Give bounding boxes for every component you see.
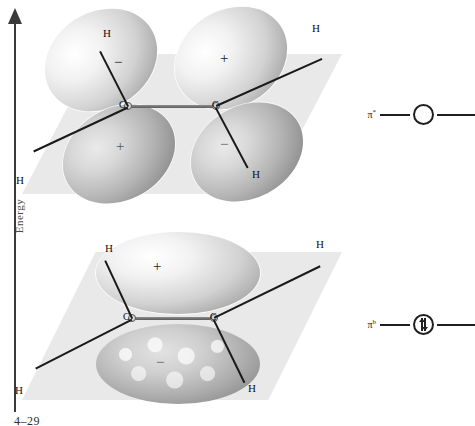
hydrogen-label-bottom-left: H [15,384,23,396]
carbon-carbon-bond [128,105,216,108]
level-line-right [437,324,475,326]
hydrogen-label-bottom-left: H [16,174,24,186]
hydrogen-label-top-right: H [316,238,324,250]
energy-level-antibonding: π* [356,104,475,125]
carbon-label-left: C [123,311,130,322]
energy-level-bonding: πb [356,314,475,335]
figure-number: 4–29 [14,414,40,426]
sign-lower-lobe: − [156,354,164,371]
level-line-right [437,114,475,116]
carbon-label-right: C [210,311,217,322]
lobe-upper-merged [96,232,260,314]
hydrogen-label-top-left: H [103,27,111,39]
electron-pair-arrows-icon [418,318,429,331]
sign-bottom-left: + [116,138,124,155]
carbon-label-left: C [119,99,126,110]
sign-bottom-right: − [220,136,228,153]
bonding-orbital-panel: + − H H H H C C [20,222,350,412]
hydrogen-label-top-right: H [312,22,320,34]
orbital-circle-filled [413,314,434,335]
level-label-bonding: πb [356,318,376,330]
carbon-carbon-bond [132,317,214,320]
level-label-antibonding: π* [356,108,376,120]
level-line-left [380,324,410,326]
level-line-left [380,114,410,116]
antibonding-orbital-panel: − + + − H H H H C C [20,6,350,211]
sign-upper-lobe: + [153,258,161,275]
pi-superscript: * [373,108,377,116]
hydrogen-label-bottom-right: H [248,382,256,394]
spin-down-arrow-icon [424,318,426,331]
hydrogen-label-bottom-right: H [252,168,260,180]
sign-top-left: − [114,54,122,71]
hydrogen-label-top-left: H [105,242,113,254]
sign-top-right: + [220,50,228,67]
orbital-circle-empty [413,104,434,125]
carbon-label-right: C [212,99,219,110]
pi-superscript: b [373,318,377,326]
